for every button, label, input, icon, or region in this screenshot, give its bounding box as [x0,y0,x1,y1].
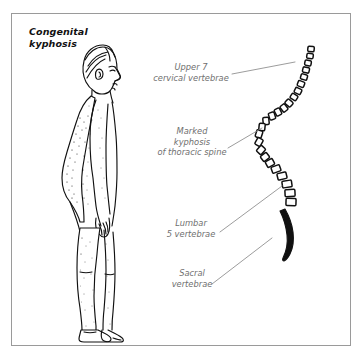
cervical-vertebrae [294,46,315,95]
knee-line-front [105,274,114,275]
chest-front-line [112,102,117,226]
leg-back-outline [77,228,100,332]
thoracic-vertebrae [254,93,298,168]
illustration-canvas [0,0,364,362]
hand-finger-3 [106,222,108,232]
arm-outline [90,100,101,226]
label-sacral-vertebrae: Sacral vertebrae [156,268,228,289]
label-cervical-vertebrae: Upper 7 cervical vertebrae [148,62,234,83]
torso-outline [62,96,95,222]
arm-back-line [106,104,110,214]
leg-front-outline [103,230,106,330]
human-figure-lateral [62,45,123,342]
chin-line [112,88,115,90]
lumbar-vertebrae [271,164,296,205]
toe-line [113,338,121,340]
label-lumbar-vertebrae: Lumbar 5 vertebrae [152,218,230,239]
leg-front-back-line [112,232,115,330]
sacral-vertebrae [280,209,293,261]
figure-root: Congenital kyphosis [0,0,364,362]
vertebral-column [254,46,314,261]
label-thoracic-kyphosis: Marked kyphosis of thoracic spine [146,126,238,158]
leader-line-cervical [232,62,295,74]
